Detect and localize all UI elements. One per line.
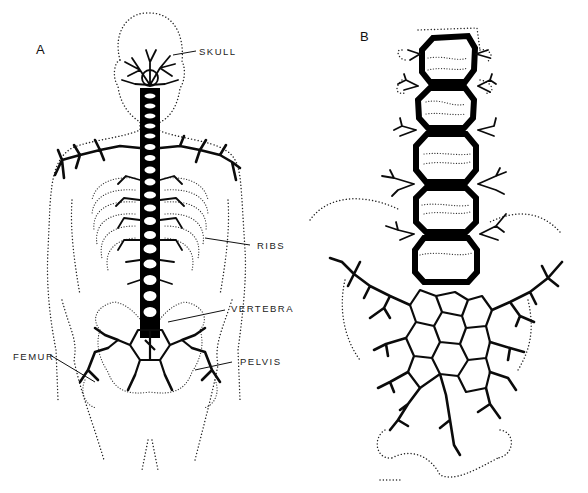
sacral-venous-network: [330, 258, 562, 455]
label-vertebra: VERTEBRA: [231, 303, 294, 314]
leader-vertebra: [168, 310, 225, 322]
vertebral-bodies-b: [415, 36, 477, 282]
vertebral-plexus-detail-drawing: [290, 0, 588, 493]
label-skull: SKULL: [199, 46, 237, 57]
body-outline-drawing: [0, 0, 300, 493]
panel-a-full-body-view: A: [0, 0, 300, 493]
label-pelvis: PELVIS: [240, 356, 282, 367]
skull-veins: [122, 50, 178, 86]
vertebral-column-a: [140, 88, 160, 338]
label-femur: FEMUR: [13, 351, 54, 362]
panel-b-lumbar-detail: B: [290, 0, 588, 493]
label-ribs: RIBS: [257, 240, 285, 251]
leader-skull: [173, 51, 196, 55]
leader-pelvis: [195, 362, 232, 370]
